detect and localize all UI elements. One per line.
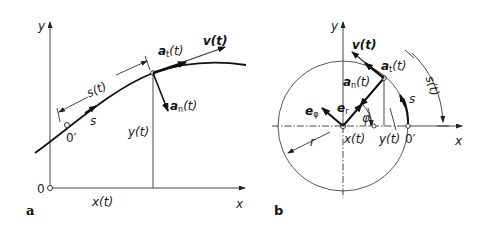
y-leader-2 — [390, 108, 396, 130]
arc-length-dim-right — [116, 61, 147, 75]
x-coordinate-label-b: x(t) — [343, 132, 365, 146]
x-axis-label: x — [235, 197, 244, 211]
unit-radial-label: er — [337, 101, 349, 116]
origin-marker — [48, 186, 53, 191]
angle-label: φ — [362, 111, 370, 125]
kinematics-figure: y x 0 0′ s(t) s y(t) x(t) v(t) at(t) an(… — [0, 0, 492, 233]
panel-b: y x 0′ x(t) y(t) r φ s s(t) v(t) at(t) a… — [272, 19, 463, 218]
arc-length-label-b: s(t) — [423, 74, 443, 98]
tangential-accel-vector — [153, 62, 186, 73]
path-coordinate-label-b: s — [409, 92, 415, 106]
origin-prime-marker-b — [406, 124, 411, 129]
normal-accel-label: an(t) — [170, 99, 197, 114]
panel-b-label: b — [274, 203, 283, 218]
arc-length-dim-left — [59, 97, 88, 112]
arc-length-label: s(t) — [84, 79, 108, 100]
normal-accel-vector — [153, 73, 168, 111]
y-coordinate-label: y(t) — [127, 125, 149, 139]
arc-length-tick-start — [57, 108, 60, 122]
panel-a: y x 0 0′ s(t) s y(t) x(t) v(t) at(t) an(… — [26, 19, 246, 218]
y-axis-label-b: y — [330, 19, 339, 33]
path-coordinate-label: s — [90, 114, 96, 128]
tangential-accel-label: at(t) — [158, 44, 183, 59]
arc-length-tick-end — [145, 56, 150, 70]
panel-a-label: a — [26, 203, 35, 218]
velocity-label-b: v(t) — [352, 38, 377, 52]
x-coordinate-label: x(t) — [91, 195, 113, 209]
origin-prime-label: 0′ — [66, 131, 77, 145]
radius-label: r — [310, 135, 316, 149]
angle-marker — [372, 124, 376, 128]
tangential-accel-label-b: at(t) — [381, 59, 406, 74]
y-axis-label: y — [37, 19, 46, 33]
origin-prime-label-b: 0′ — [405, 132, 416, 146]
x-axis-label-b: x — [454, 134, 463, 148]
origin-prime-marker — [65, 123, 70, 128]
velocity-label: v(t) — [203, 34, 228, 48]
y-coordinate-label-b: y(t) — [378, 132, 400, 146]
unit-angular-label: eφ — [305, 104, 318, 119]
radius-dimension — [288, 132, 330, 153]
s-direction-arrow — [85, 106, 96, 113]
normal-accel-label-b: an(t) — [343, 75, 370, 90]
origin-label: 0 — [37, 182, 45, 196]
